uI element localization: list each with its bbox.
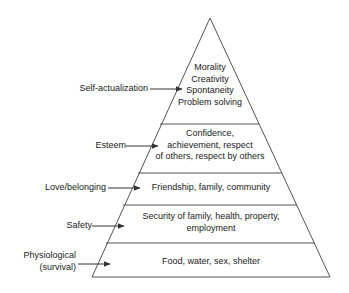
maslow-pyramid-diagram: Morality Creativity Spontaneity Problem …	[0, 0, 349, 293]
side-label-safety: Safety	[48, 220, 92, 232]
tier-content-safety: Security of family, health, property, em…	[106, 211, 316, 234]
tier-content-esteem: Confidence, achievement, respect of othe…	[128, 128, 292, 163]
tier-content-physiological: Food, water, sex, shelter	[96, 256, 326, 268]
side-label-physiological: Physiological (survival)	[4, 250, 76, 273]
side-label-esteem: Esteem	[78, 140, 126, 152]
side-label-self-actualization: Self-actualization	[62, 83, 148, 95]
tier-content-self-actualization: Morality Creativity Spontaneity Problem …	[148, 62, 272, 108]
tier-content-love-belonging: Friendship, family, community	[118, 182, 304, 194]
side-label-love-belonging: Love/belonging	[22, 182, 106, 194]
